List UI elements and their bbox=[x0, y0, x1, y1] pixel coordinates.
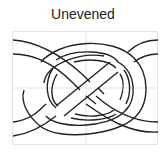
knot-diagram bbox=[0, 0, 166, 152]
